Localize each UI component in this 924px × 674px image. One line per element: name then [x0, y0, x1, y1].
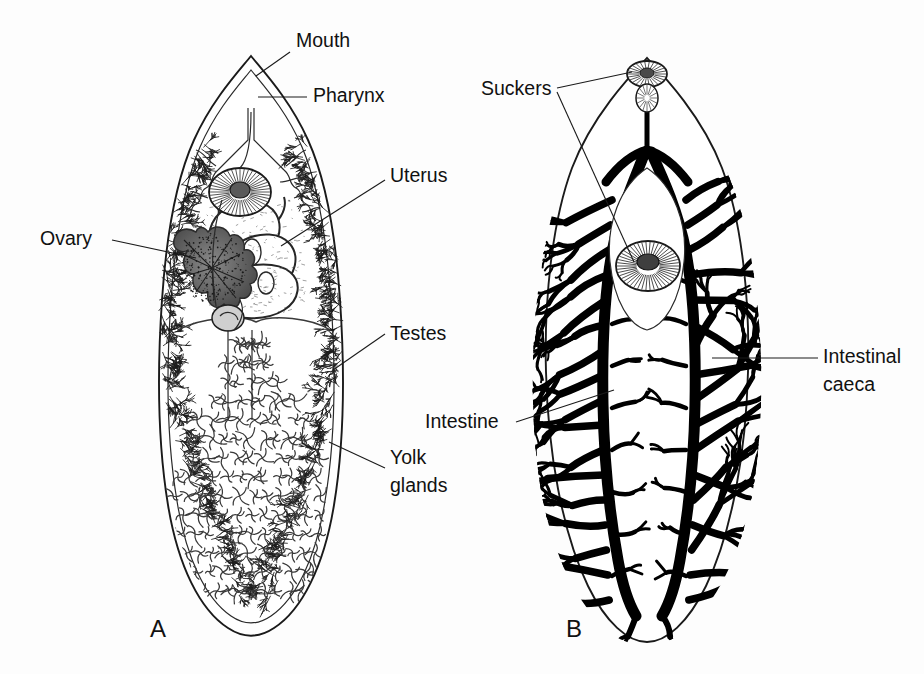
label-suckers: Suckers — [481, 77, 552, 99]
trematode-diagram: A Mouth Pharynx Uterus Ovary Testes Yolk… — [0, 0, 924, 674]
panel-letter-a: A — [150, 615, 166, 642]
figure-container: A Mouth Pharynx Uterus Ovary Testes Yolk… — [0, 0, 924, 674]
label-intestinal-caeca-line2: caeca — [823, 373, 875, 395]
label-yolk-glands-line1: Yolk — [390, 446, 426, 468]
label-ovary: Ovary — [40, 227, 92, 249]
label-intestine: Intestine — [425, 410, 499, 432]
panel-letter-b: B — [566, 615, 582, 642]
label-yolk-glands-line2: glands — [390, 474, 448, 496]
ventral-sucker-b — [616, 241, 680, 291]
label-uterus: Uterus — [390, 164, 448, 186]
ventral-sucker-a — [209, 168, 271, 216]
label-intestinal-caeca-line1: Intestinal — [823, 345, 901, 367]
label-mouth: Mouth — [296, 29, 350, 51]
label-testes: Testes — [390, 322, 447, 344]
label-pharynx: Pharynx — [313, 84, 385, 106]
paper-background — [0, 0, 924, 674]
ootype-a — [212, 305, 244, 331]
